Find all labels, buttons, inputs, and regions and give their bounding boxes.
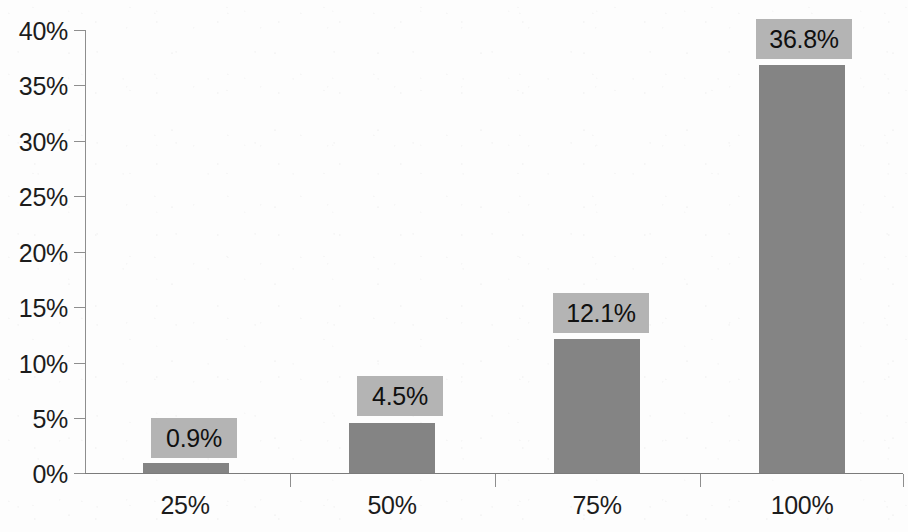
y-tick-mark-0 <box>74 473 85 474</box>
y-tick-mark-20 <box>74 252 85 253</box>
bar-50 <box>349 423 435 473</box>
y-tick-mark-35 <box>74 85 85 86</box>
x-separator-tick-4 <box>903 474 904 487</box>
x-category-label-25: 25% <box>105 491 265 520</box>
y-tick-label-40: 40% <box>2 17 68 46</box>
y-axis-line <box>85 30 86 474</box>
y-tick-mark-30 <box>74 141 85 142</box>
data-label-25: 0.9% <box>151 418 237 458</box>
x-category-label-50: 50% <box>312 491 472 520</box>
y-tick-label-30: 30% <box>2 128 68 157</box>
y-tick-label-25: 25% <box>2 183 68 212</box>
bar-75 <box>554 339 640 473</box>
y-tick-mark-25 <box>74 196 85 197</box>
data-label-100: 36.8% <box>756 19 852 59</box>
bar-chart: 40% 35% 30% 25% 20% 15% 10% 5% 0% 25% 50… <box>0 0 908 532</box>
y-tick-label-15: 15% <box>2 294 68 323</box>
y-tick-label-20: 20% <box>2 239 68 268</box>
y-tick-label-10: 10% <box>2 350 68 379</box>
x-category-label-75: 75% <box>517 491 677 520</box>
x-axis-line <box>85 473 903 474</box>
y-tick-mark-10 <box>74 363 85 364</box>
y-tick-label-35: 35% <box>2 72 68 101</box>
y-tick-mark-40 <box>74 30 85 31</box>
data-label-75: 12.1% <box>553 293 649 333</box>
data-label-50: 4.5% <box>357 376 443 416</box>
y-tick-mark-15 <box>74 307 85 308</box>
y-tick-label-0: 0% <box>2 460 68 489</box>
bar-25 <box>143 463 229 473</box>
bar-100 <box>759 65 845 473</box>
x-separator-tick-1 <box>290 474 291 487</box>
x-category-label-100: 100% <box>722 491 882 520</box>
y-tick-mark-5 <box>74 418 85 419</box>
y-tick-label-5: 5% <box>2 405 68 434</box>
x-separator-tick-2 <box>495 474 496 487</box>
x-separator-tick-3 <box>700 474 701 487</box>
